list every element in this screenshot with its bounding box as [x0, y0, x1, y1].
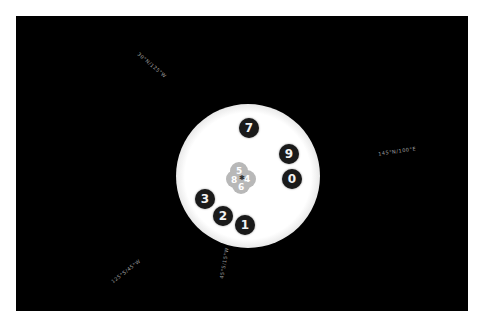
coordinate-label-sw: 125°S/45°W: [110, 258, 142, 285]
dial-button-3[interactable]: 3: [195, 189, 215, 209]
dial-button-7[interactable]: 7: [239, 118, 259, 138]
game-stage: 30°N/125°W 145°N/100°E 125°S/45°W 45°S/1…: [16, 16, 468, 311]
dial-button-2[interactable]: 2: [213, 206, 233, 226]
coordinate-label-e: 145°N/100°E: [378, 145, 417, 156]
center-digit-cluster[interactable]: 5 4 8 6 ✱: [226, 162, 256, 194]
cursor-star-icon: ✱: [239, 173, 245, 183]
dial-button-1[interactable]: 1: [235, 215, 255, 235]
dial-button-0[interactable]: 0: [282, 169, 302, 189]
coordinate-label-nw: 30°N/125°W: [136, 51, 168, 79]
cluster-digit-8: 8: [231, 175, 237, 185]
coordinate-label-s: 45°S/15°W: [218, 247, 229, 280]
dial-button-9[interactable]: 9: [279, 144, 299, 164]
cluster-digit-6: 6: [238, 182, 244, 192]
